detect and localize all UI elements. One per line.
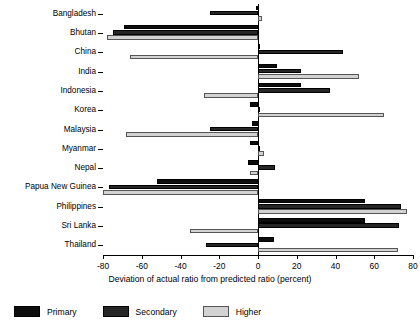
bar-higher [250, 171, 258, 176]
bar-secondary [258, 88, 330, 93]
bar-higher [130, 55, 258, 60]
bar-secondary [258, 50, 343, 55]
bar-secondary [258, 107, 260, 112]
x-tick [142, 255, 143, 259]
x-tick-label: 0 [238, 261, 278, 271]
bar-group [103, 81, 413, 100]
x-tick-label: 20 [277, 261, 317, 271]
category-label: Nepal [0, 163, 96, 172]
bar-higher [258, 74, 359, 79]
bar-primary [157, 179, 258, 184]
category-label: Papua New Guinea [0, 182, 96, 191]
bar-primary [256, 6, 258, 11]
legend-swatch-higher [203, 306, 229, 317]
category-tick [98, 14, 103, 15]
x-tick [336, 255, 337, 259]
bar-primary [250, 102, 258, 107]
legend-label-primary: Primary [47, 307, 77, 317]
bar-secondary [258, 204, 401, 209]
bar-group [103, 178, 413, 197]
legend-item-primary: Primary [14, 306, 77, 317]
category-tick [98, 72, 103, 73]
bar-primary [248, 160, 258, 165]
bar-primary [258, 199, 365, 204]
bar-primary [250, 141, 258, 146]
bar-secondary [109, 185, 258, 190]
bar-secondary [113, 30, 258, 35]
bar-group [103, 101, 413, 120]
category-label: Philippines [0, 202, 96, 211]
x-tick-label: -80 [83, 261, 123, 271]
legend-label-secondary: Secondary [136, 307, 177, 317]
bar-primary [124, 25, 258, 30]
x-tick [258, 255, 259, 259]
category-tick [98, 168, 103, 169]
bar-primary [252, 121, 258, 126]
category-label: Thailand [0, 240, 96, 249]
bar-higher [204, 93, 258, 98]
bar-higher [258, 16, 262, 21]
bar-higher [258, 209, 407, 214]
x-tick [219, 255, 220, 259]
bar-secondary [258, 223, 399, 228]
bar-group [103, 4, 413, 23]
bar-group [103, 43, 413, 62]
category-axis: BangladeshBhutanChinaIndiaIndonesiaKorea… [0, 4, 96, 255]
legend-swatch-secondary [103, 306, 129, 317]
bar-group [103, 236, 413, 255]
bar-secondary [210, 127, 258, 132]
category-label: Sri Lanka [0, 221, 96, 230]
x-tick [297, 255, 298, 259]
category-label: India [0, 67, 96, 76]
bar-higher [190, 229, 258, 234]
category-label: Bhutan [0, 28, 96, 37]
chart-container: BangladeshBhutanChinaIndiaIndonesiaKorea… [0, 0, 420, 333]
bar-secondary [258, 146, 260, 151]
bar-secondary [258, 165, 275, 170]
category-tick [98, 33, 103, 34]
category-tick [98, 245, 103, 246]
category-label: Korea [0, 105, 96, 114]
category-tick [98, 91, 103, 92]
x-tick-label: 60 [354, 261, 394, 271]
bar-secondary [206, 243, 258, 248]
bar-primary [258, 237, 274, 242]
bar-higher [258, 248, 398, 253]
category-label: China [0, 47, 96, 56]
category-tick [98, 226, 103, 227]
x-tick-label: 80 [393, 261, 420, 271]
category-label: Malaysia [0, 125, 96, 134]
bar-primary [258, 218, 365, 223]
category-label: Bangladesh [0, 9, 96, 18]
x-axis-title: Deviation of actual ratio from predicted… [0, 274, 420, 284]
legend-label-higher: Higher [236, 307, 261, 317]
x-tick [103, 255, 104, 259]
category-tick [98, 110, 103, 111]
bar-higher [258, 151, 264, 156]
bar-secondary [258, 69, 301, 74]
category-tick [98, 130, 103, 131]
category-tick [98, 52, 103, 53]
legend-item-secondary: Secondary [103, 306, 177, 317]
category-tick [98, 207, 103, 208]
bar-higher [126, 132, 258, 137]
plot-area [103, 4, 413, 255]
bar-primary [258, 44, 260, 49]
x-tick [374, 255, 375, 259]
bar-higher [258, 113, 384, 118]
bar-higher [103, 190, 258, 195]
bar-group [103, 120, 413, 139]
legend-swatch-primary [14, 306, 40, 317]
bar-group [103, 23, 413, 42]
x-tick [181, 255, 182, 259]
bar-higher [107, 35, 258, 40]
category-label: Myanmar [0, 144, 96, 153]
legend-item-higher: Higher [203, 306, 261, 317]
category-tick [98, 187, 103, 188]
x-tick [413, 255, 414, 259]
bar-group [103, 62, 413, 81]
category-tick [98, 149, 103, 150]
bar-group [103, 139, 413, 158]
bar-primary [258, 83, 301, 88]
x-tick-label: -40 [161, 261, 201, 271]
